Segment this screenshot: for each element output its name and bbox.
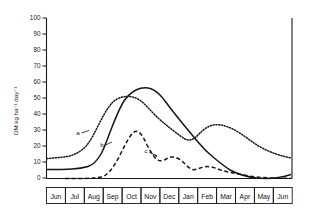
x-tick-label-month: Jan bbox=[183, 193, 194, 200]
x-tick-label-month: Jul bbox=[70, 193, 79, 200]
x-tick-label-month: Oct bbox=[126, 193, 137, 200]
y-tick-labels: 100 90 80 70 60 50 40 30 20 10 0 bbox=[30, 14, 41, 181]
y-axis-title: DM kg ha⁻¹ day⁻¹ bbox=[12, 87, 19, 135]
y-tick-label: 70 bbox=[33, 62, 41, 69]
y-tick-label: 10 bbox=[33, 158, 41, 165]
x-tick-label-month: Aug bbox=[88, 193, 100, 201]
y-tick-label: 40 bbox=[33, 110, 41, 117]
y-tick-label: 60 bbox=[33, 78, 41, 85]
y-tick-label: 20 bbox=[33, 142, 41, 149]
series-label-a: a bbox=[76, 129, 80, 136]
series-label-a-group: a bbox=[76, 129, 89, 136]
x-tick-label-month: Jun bbox=[277, 193, 288, 200]
figure-container: 100 90 80 70 60 50 40 30 20 10 0 DM kg h… bbox=[0, 0, 311, 221]
series-c-line bbox=[65, 131, 291, 178]
x-tick-label-month: Apr bbox=[240, 193, 251, 201]
line-chart: 100 90 80 70 60 50 40 30 20 10 0 DM kg h… bbox=[0, 0, 311, 221]
y-tick-label: 30 bbox=[33, 126, 41, 133]
y-tick-marks bbox=[43, 18, 47, 178]
y-tick-label: 50 bbox=[33, 94, 41, 101]
y-tick-label: 90 bbox=[33, 30, 41, 37]
y-tick-label: 100 bbox=[30, 14, 41, 21]
x-tick-label-month: Nov bbox=[144, 193, 157, 200]
series-label-c: c bbox=[144, 147, 147, 154]
series-b-line bbox=[47, 88, 291, 179]
y-tick-label: 0 bbox=[37, 174, 41, 181]
x-tick-label-month: Feb bbox=[201, 193, 213, 200]
x-axis-month-boxes: Jun Jul Aug Sep Oct Nov Dec Jan Feb Mar … bbox=[47, 188, 293, 204]
x-tick-label-month: May bbox=[257, 193, 270, 201]
x-tick-label-month: Sep bbox=[107, 193, 119, 201]
x-tick-label-month: Jun bbox=[50, 193, 61, 200]
series-label-b: b bbox=[100, 141, 104, 148]
x-tick-label-month: Mar bbox=[220, 193, 232, 200]
x-tick-label-month: Dec bbox=[163, 193, 176, 200]
y-tick-label: 80 bbox=[33, 46, 41, 53]
